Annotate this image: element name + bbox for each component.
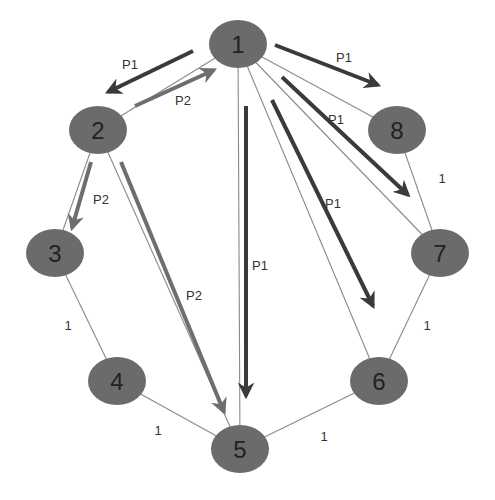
path-label-p2: P2 <box>175 93 191 108</box>
node-3: 3 <box>26 229 84 277</box>
edge-1-6 <box>238 44 379 381</box>
path-label-p1: P1 <box>122 57 138 72</box>
path-label-p1: P1 <box>252 258 268 273</box>
graph-diagram: 11111 P1P1P1P1P1P2P2P2 12345678 <box>0 0 495 500</box>
edge-1-5 <box>238 44 240 449</box>
path-label-p1: P1 <box>328 112 344 127</box>
path-label-p2: P2 <box>186 288 202 303</box>
path-p1-arrow-icon <box>275 45 378 85</box>
node-label: 2 <box>91 117 104 144</box>
edge-weight-label: 1 <box>64 318 71 333</box>
node-label: 8 <box>390 117 403 144</box>
node-label: 5 <box>233 436 246 463</box>
node-6: 6 <box>350 357 408 405</box>
node-4: 4 <box>88 357 146 405</box>
path-label-p1: P1 <box>325 196 341 211</box>
node-1: 1 <box>209 20 267 68</box>
node-label: 3 <box>48 240 61 267</box>
node-label: 1 <box>231 31 244 58</box>
node-label: 6 <box>372 368 385 395</box>
path-label-p1: P1 <box>336 50 352 65</box>
edge-weight-label: 1 <box>423 318 430 333</box>
node-label: 7 <box>433 240 446 267</box>
graph-canvas: 11111 P1P1P1P1P1P2P2P2 12345678 <box>0 0 495 500</box>
edge-weight-label: 1 <box>438 171 445 186</box>
node-5: 5 <box>211 425 269 473</box>
edge-weight-label: 1 <box>320 429 327 444</box>
node-8: 8 <box>368 106 426 154</box>
path-label-p2: P2 <box>93 192 109 207</box>
node-label: 4 <box>110 368 123 395</box>
node-7: 7 <box>411 229 469 277</box>
node-2: 2 <box>69 106 127 154</box>
edge-weight-label: 1 <box>154 423 161 438</box>
